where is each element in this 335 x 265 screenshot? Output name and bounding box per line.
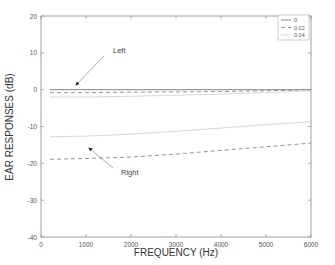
y-tick-label: 0	[33, 86, 37, 93]
legend-label: 0.04	[294, 32, 305, 38]
y-axis-label: EAR RESPONSES (dB)	[4, 73, 15, 180]
plot-axes: 010002000300040005000600020100-10-20-30-…	[28, 13, 319, 249]
ear-response-chart: 010002000300040005000600020100-10-20-30-…	[0, 0, 335, 265]
y-tick-label: 20	[30, 13, 38, 20]
plot-frame	[41, 16, 311, 237]
x-tick-label: 6000	[304, 241, 319, 248]
legend: 00.020.04	[278, 15, 309, 40]
x-tick-label: 5000	[259, 241, 274, 248]
line-right-0_02	[50, 143, 311, 159]
y-tick-label: 10	[30, 49, 38, 56]
y-tick-label: -10	[28, 123, 38, 130]
legend-label: 0	[294, 17, 297, 23]
data-lines	[50, 90, 311, 160]
annotation-label-right: Right	[121, 168, 139, 177]
annotation-arrow-left	[76, 56, 104, 85]
y-tick-label: -30	[28, 197, 38, 204]
y-tick-label: -40	[28, 234, 38, 241]
x-tick-label: 1000	[79, 241, 94, 248]
legend-label: 0.02	[294, 25, 305, 31]
x-tick-label: 0	[39, 241, 43, 248]
line-left-0_04	[50, 91, 311, 97]
line-right-0_04	[50, 122, 311, 137]
annotation-label-left: Left	[113, 46, 126, 55]
y-tick-label: -20	[28, 160, 38, 167]
x-axis-label: FREQUENCY (Hz)	[134, 247, 218, 258]
